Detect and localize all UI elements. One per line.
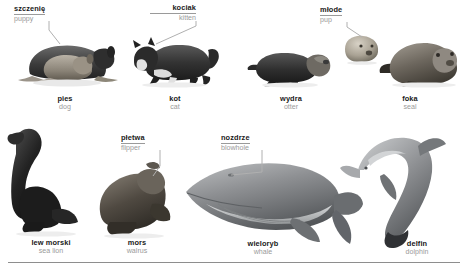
caption-walrus-pl: mors — [108, 239, 166, 247]
callout-blowhole: nozdrze blowhole — [221, 134, 250, 153]
caption-otter: wydra otter — [260, 95, 322, 111]
caption-seal-en: seal — [380, 104, 440, 111]
caption-whale-en: whale — [228, 249, 298, 256]
caption-whale-pl: wieloryb — [228, 240, 298, 248]
baseline-rule — [8, 262, 460, 263]
callout-kitten-en: kitten — [150, 15, 196, 23]
callout-kitten: kociak kitten — [150, 4, 196, 23]
caption-sea-lion-en: sea lion — [16, 248, 86, 255]
callout-pup: młode pup — [320, 6, 342, 25]
caption-otter-pl: wydra — [260, 95, 322, 103]
callout-flipper: płetwa flipper — [121, 134, 145, 153]
callout-flipper-en: flipper — [121, 145, 145, 153]
illustration-page: szczenię puppy kociak kitten młode pup p… — [0, 0, 468, 269]
caption-dog-en: dog — [35, 104, 95, 111]
caption-whale: wieloryb whale — [228, 240, 298, 256]
caption-dolphin: delfin dolphin — [386, 240, 448, 256]
caption-dolphin-pl: delfin — [386, 240, 448, 248]
callout-flipper-pl: płetwa — [121, 134, 145, 144]
caption-cat: kot cat — [145, 95, 205, 111]
caption-cat-en: cat — [145, 104, 205, 111]
caption-walrus-en: walrus — [108, 248, 166, 255]
callout-pup-en: pup — [320, 17, 342, 25]
callout-blowhole-en: blowhole — [221, 145, 250, 153]
callout-puppy: szczenię puppy — [14, 5, 45, 24]
callout-kitten-pl: kociak — [150, 4, 196, 14]
callout-pup-pl: młode — [320, 6, 342, 16]
caption-sea-lion-pl: lew morski — [16, 239, 86, 247]
callout-puppy-pl: szczenię — [14, 5, 45, 15]
caption-dolphin-en: dolphin — [386, 249, 448, 256]
caption-dog-pl: pies — [35, 95, 95, 103]
caption-sea-lion: lew morski sea lion — [16, 239, 86, 255]
caption-seal-pl: foka — [380, 95, 440, 103]
caption-walrus: mors walrus — [108, 239, 166, 255]
caption-seal: foka seal — [380, 95, 440, 111]
caption-cat-pl: kot — [145, 95, 205, 103]
caption-otter-en: otter — [260, 104, 322, 111]
caption-dog: pies dog — [35, 95, 95, 111]
callout-puppy-en: puppy — [14, 16, 45, 24]
callout-blowhole-pl: nozdrze — [221, 134, 250, 144]
